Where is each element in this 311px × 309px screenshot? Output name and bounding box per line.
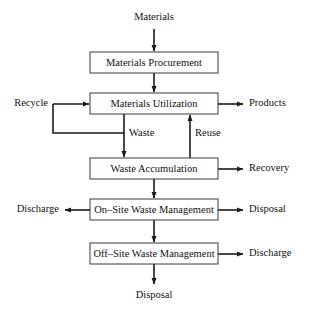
label-materials-input: Materials [134, 11, 174, 22]
node-waste-accumulation-label: Waste Accumulation [111, 163, 199, 174]
node-materials-procurement-label: Materials Procurement [106, 57, 202, 68]
label-reuse: Reuse [195, 127, 221, 138]
label-discharge-on-site: Discharge [17, 203, 60, 214]
flowchart-diagram: Materials Procurement Materials Utilizat… [0, 0, 311, 309]
label-disposal-final: Disposal [136, 289, 173, 300]
label-discharge-off-site: Discharge [249, 247, 292, 258]
node-materials-utilization-label: Materials Utilization [110, 98, 198, 109]
label-products: Products [249, 97, 286, 108]
label-recovery: Recovery [249, 162, 290, 173]
label-waste: Waste [129, 127, 155, 138]
label-disposal-on-site: Disposal [249, 203, 286, 214]
node-off-site-waste-management-label: Off–Site Waste Management [93, 248, 214, 259]
flowchart-canvas: Materials Procurement Materials Utilizat… [0, 0, 311, 309]
label-recycle: Recycle [14, 97, 48, 108]
node-on-site-waste-management-label: On–Site Waste Management [94, 204, 214, 215]
